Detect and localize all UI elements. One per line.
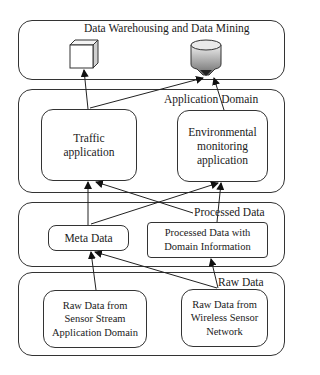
layer-label-processed-data: Processed Data	[193, 206, 266, 219]
node-meta-data-label: Meta Data	[64, 231, 112, 245]
layer-label-data-warehousing: Data Warehousing and Data Mining	[83, 22, 251, 35]
layer-label-application-domain: Application Domain	[163, 93, 259, 106]
node-raw-sensor-stream-label: Raw Data from Sensor Stream Application …	[52, 299, 138, 340]
node-environmental-monitoring-application: Environmental monitoring application	[177, 110, 268, 182]
node-environmental-monitoring-label: Environmental monitoring application	[188, 125, 256, 167]
node-traffic-application: Traffic application	[41, 109, 137, 181]
node-meta-data: Meta Data	[48, 225, 129, 251]
node-raw-data-wireless-sensor-network: Raw Data from Wireless Sensor Network	[181, 289, 268, 347]
node-processed-data-with-domain-information: Processed Data with Domain Information	[147, 222, 268, 258]
cube-icon	[69, 39, 99, 69]
node-traffic-application-label: Traffic application	[63, 131, 114, 159]
node-raw-wsn-label: Raw Data from Wireless Sensor Network	[191, 298, 259, 339]
layer-label-raw-data: Raw Data	[217, 276, 265, 289]
database-cylinder-icon	[189, 38, 223, 78]
node-raw-data-sensor-stream: Raw Data from Sensor Stream Application …	[43, 290, 147, 348]
node-processed-data-label: Processed Data with Domain Information	[164, 226, 251, 254]
